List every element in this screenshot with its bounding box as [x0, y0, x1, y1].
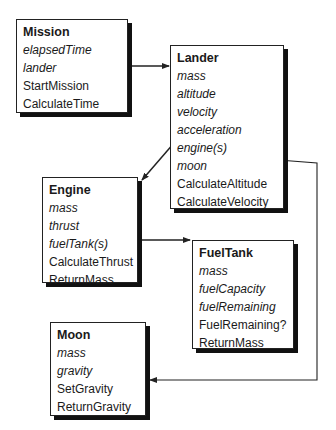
class-engine: Engine mass thrust fuelTank(s) Calculate… — [42, 177, 138, 283]
class-moon: Moon mass gravity SetGravity ReturnGravi… — [50, 322, 146, 416]
attribute: acceleration — [177, 121, 277, 139]
class-title: FuelTank — [199, 244, 287, 262]
attribute: gravity — [57, 362, 139, 380]
attribute: velocity — [177, 103, 277, 121]
attribute: mass — [177, 67, 277, 85]
operation: CalculateVelocity — [177, 193, 277, 211]
attribute: mass — [199, 262, 287, 280]
class-title: Mission — [23, 23, 121, 41]
attribute: fuelTank(s) — [49, 235, 131, 253]
operation: ReturnMass — [49, 271, 131, 289]
class-title: Lander — [177, 49, 277, 67]
class-fueltank: FuelTank mass fuelCapacity fuelRemaining… — [192, 240, 294, 349]
operation: CalculateAltitude — [177, 175, 277, 193]
class-title: Moon — [57, 326, 139, 344]
attribute: moon — [177, 157, 277, 175]
attribute: engine(s) — [177, 139, 277, 157]
attribute: altitude — [177, 85, 277, 103]
operation: FuelRemaining? — [199, 316, 287, 334]
attribute: elapsedTime — [23, 41, 121, 59]
attribute: mass — [49, 199, 131, 217]
attribute: fuelRemaining — [199, 298, 287, 316]
class-mission: Mission elapsedTime lander StartMission … — [16, 19, 128, 113]
operation: ReturnMass — [199, 334, 287, 352]
attribute: lander — [23, 59, 121, 77]
attribute: fuelCapacity — [199, 280, 287, 298]
operation: CalculateTime — [23, 95, 121, 113]
attribute: mass — [57, 344, 139, 362]
operation: StartMission — [23, 77, 121, 95]
operation: ReturnGravity — [57, 398, 139, 416]
operation: SetGravity — [57, 380, 139, 398]
attribute: thrust — [49, 217, 131, 235]
operation: CalculateThrust — [49, 253, 131, 271]
class-lander: Lander mass altitude velocity accelerati… — [170, 45, 284, 209]
class-title: Engine — [49, 181, 131, 199]
